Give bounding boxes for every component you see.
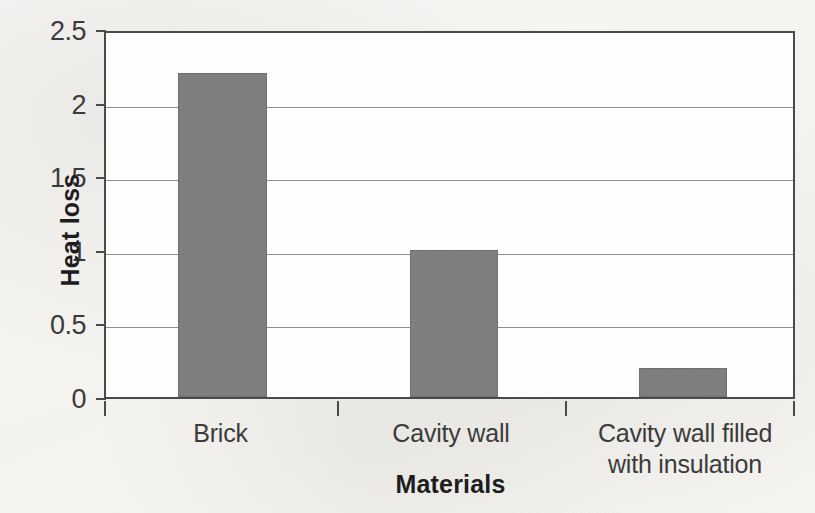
x-category-label-brick: Brick <box>104 418 337 449</box>
y-tick-label-2: 2 <box>71 89 86 120</box>
x-tick-mark-right-edge <box>793 401 795 416</box>
x-tick-mark-left-edge <box>104 401 106 416</box>
x-tick-mark-2 <box>565 401 567 416</box>
x-category-label-brick-line1: Brick <box>104 418 337 449</box>
bar-cavity-wall-filled-with-insulation[interactable] <box>639 368 727 397</box>
y-tick-label-2.5: 2.5 <box>50 16 86 47</box>
x-axis-title-wrapper: Materials <box>0 470 815 499</box>
y-tick-label-0: 0 <box>71 384 86 415</box>
y-axis-title: Heat loss <box>56 174 85 287</box>
x-tick-mark-1 <box>337 401 339 416</box>
bar-brick[interactable] <box>178 73 267 397</box>
x-category-label-cavity-wall-line1: Cavity wall <box>337 418 565 449</box>
x-axis-title: Materials <box>395 470 505 499</box>
x-category-label-cavity-wall: Cavity wall <box>337 418 565 449</box>
bar-cavity-wall[interactable] <box>410 250 498 397</box>
x-category-label-cavity-wall-filled-line1: Cavity wall filled <box>565 418 805 449</box>
y-tick-label-0.5: 0.5 <box>50 310 86 341</box>
chart-page: 2.5 2 1.5 1 0.5 0 Heat loss Brick Cavity… <box>0 0 815 513</box>
plot-area <box>104 31 795 399</box>
